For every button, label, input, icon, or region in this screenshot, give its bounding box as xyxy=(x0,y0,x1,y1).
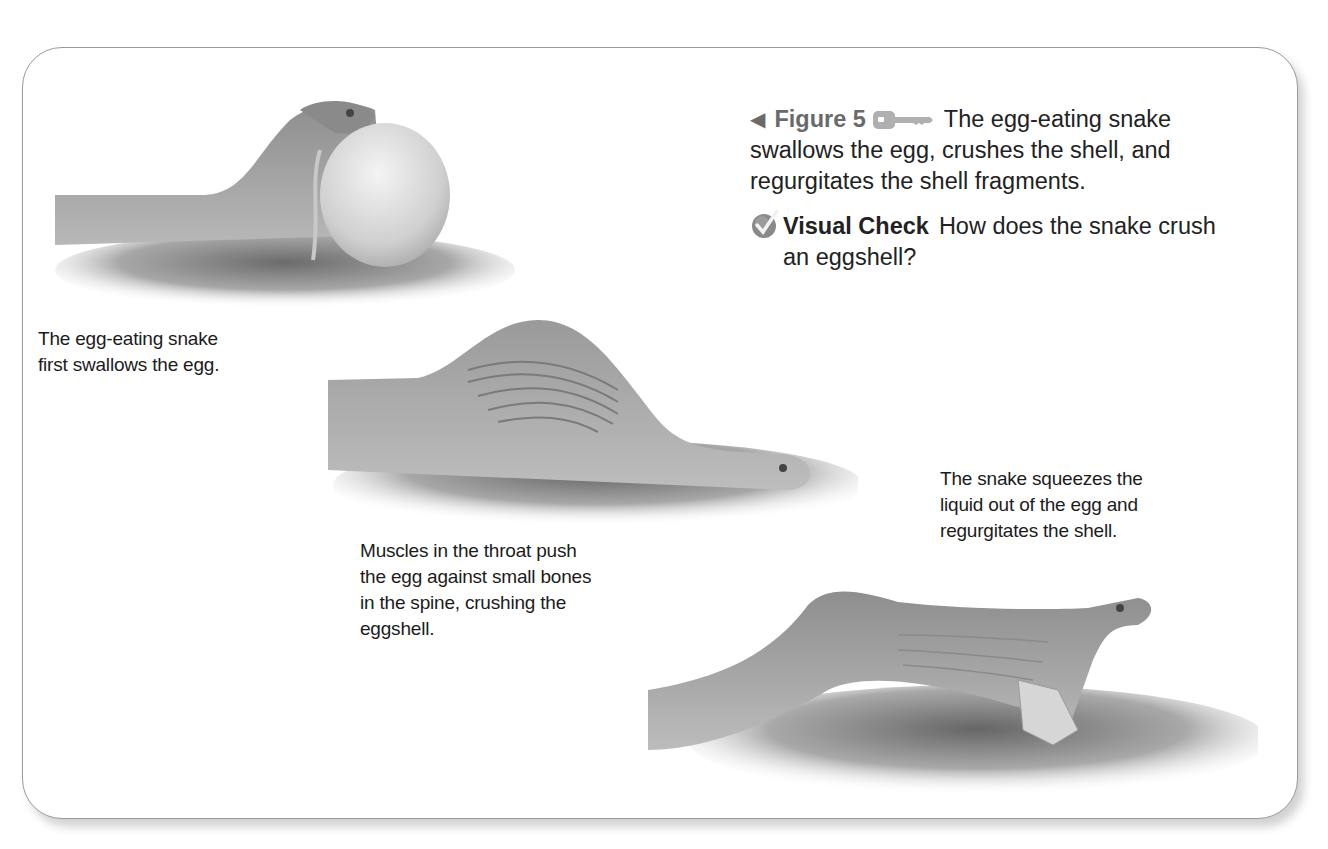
snake-regurgitating-shell-illustration xyxy=(648,580,1258,800)
figure-caption-line-2: swallows the egg, crushes the shell, and xyxy=(750,135,1295,166)
figure-number-label: Figure 5 xyxy=(774,104,865,135)
figure-caption-line-3: regurgitates the shell fragments. xyxy=(750,166,1295,197)
snake-swallowing-egg-illustration xyxy=(55,95,515,310)
visual-check-question-2: an eggshell? xyxy=(783,242,1216,273)
step-2-caption: Muscles in the throat push the egg again… xyxy=(360,538,591,642)
left-triangle-icon: ◀ xyxy=(750,104,765,135)
figure-caption-block: ◀ Figure 5 The egg-eating snake swallows… xyxy=(750,104,1295,273)
visual-check: Visual CheckHow does the snake crush an … xyxy=(750,211,1295,273)
figure-caption-text-1: The egg-eating snake xyxy=(944,104,1171,135)
snake-crushing-egg-illustration xyxy=(328,310,858,530)
step-1-caption: The egg-eating snake first swallows the … xyxy=(38,326,219,378)
visual-check-question-1: How does the snake crush xyxy=(939,213,1216,239)
checkmark-circle-icon xyxy=(750,209,780,239)
key-icon xyxy=(872,109,934,131)
step-3-caption: The snake squeezes the liquid out of the… xyxy=(940,466,1143,544)
visual-check-label: Visual Check xyxy=(783,213,929,239)
figure-caption-line-1: ◀ Figure 5 The egg-eating snake xyxy=(750,104,1295,135)
